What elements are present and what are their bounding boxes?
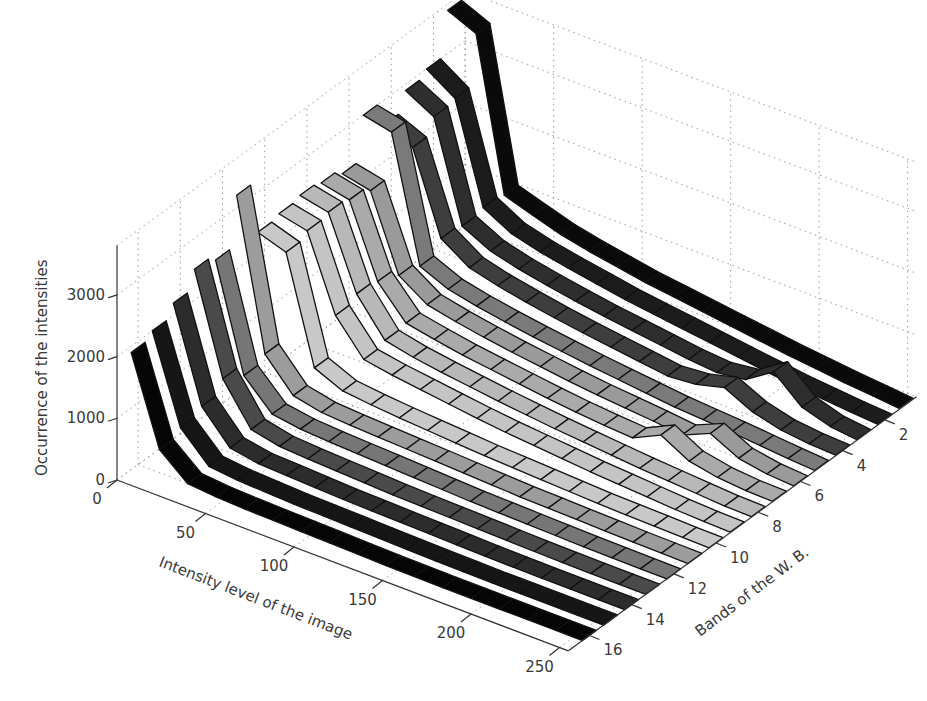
y-tick-label: 14 [646, 611, 665, 629]
x-tick-label: 50 [176, 524, 195, 542]
z-tick-label: 1000 [67, 409, 105, 427]
y-tick-label: 6 [814, 487, 824, 505]
y-axis-title: Bands of the W. B. [692, 543, 813, 640]
x-axis-title: Intensity level of the image [157, 553, 356, 644]
x-tick-label: 100 [260, 557, 289, 575]
x-tick-label: 200 [437, 624, 466, 642]
y-tick-label: 10 [730, 549, 749, 567]
z-tick-label: 2000 [67, 348, 105, 366]
z-tick-label: 3000 [67, 286, 105, 304]
y-tick-label: 2 [899, 426, 909, 444]
y-tick-label: 12 [688, 580, 707, 598]
x-tick-label: 150 [348, 591, 377, 609]
y-tick-label: 16 [603, 641, 622, 659]
x-tick-label: 0 [92, 490, 102, 508]
y-tick-label: 8 [772, 518, 782, 536]
x-tick-label: 250 [525, 658, 554, 676]
y-tick-label: 4 [857, 457, 867, 475]
ribbon-series [131, 0, 913, 640]
ribbon-chart: 0100020003000050100150200250246810121416… [0, 0, 927, 701]
z-tick-label: 0 [95, 471, 105, 489]
z-axis-title: Occurrence of the intensities [33, 259, 51, 476]
